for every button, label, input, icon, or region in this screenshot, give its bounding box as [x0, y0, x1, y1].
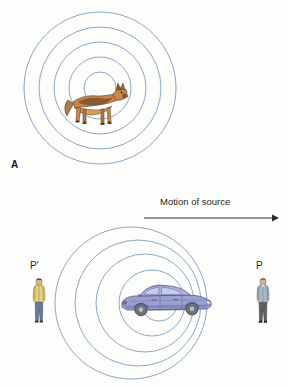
observer-label-p-prime: P' — [30, 261, 39, 271]
panel-a-stationary-source: A — [0, 0, 288, 195]
doppler-effect-figure: A B Motion of source P' P — [0, 0, 288, 389]
panel-a-wavefronts — [0, 0, 288, 195]
motion-of-source-caption: Motion of source — [160, 197, 230, 207]
motion-direction-arrow-icon — [144, 213, 280, 223]
observer-figure-left — [28, 276, 50, 326]
car-illustration — [118, 278, 214, 324]
observer-label-p: P — [256, 261, 263, 271]
observer-figure-right — [252, 276, 274, 326]
panel-a-label: A — [11, 160, 19, 170]
dog-illustration — [63, 78, 129, 130]
